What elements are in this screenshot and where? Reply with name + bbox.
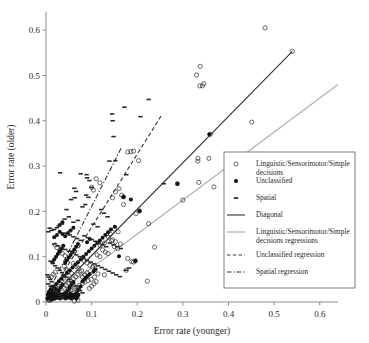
- data-point-filled-circle: [71, 226, 75, 230]
- data-point-open-circle: [263, 26, 267, 30]
- data-point-open-circle: [207, 156, 211, 160]
- data-point-dash: [70, 252, 74, 254]
- data-point-dash: [75, 238, 79, 240]
- data-point-dash: [60, 272, 64, 274]
- data-point-dash: [49, 281, 53, 283]
- data-point-dash: [107, 270, 111, 272]
- data-point-dash: [67, 279, 71, 281]
- data-point-dash: [81, 258, 85, 260]
- data-point-dash: [138, 116, 142, 118]
- data-point-dash: [78, 290, 82, 292]
- data-point-filled-circle: [122, 195, 126, 199]
- data-point-dash: [78, 173, 82, 175]
- data-point-dash: [52, 243, 56, 245]
- legend-marker-dash: [234, 197, 239, 199]
- data-point-dash: [108, 242, 112, 244]
- data-point-dash: [105, 216, 109, 218]
- data-point-filled-circle: [63, 234, 67, 238]
- data-point-dash: [53, 265, 57, 267]
- data-point-dash: [72, 187, 76, 189]
- data-point-dash: [57, 294, 61, 296]
- data-point-dash: [71, 236, 75, 238]
- data-point-dash: [119, 248, 123, 250]
- data-point-dash: [57, 225, 61, 227]
- data-point-dash: [80, 206, 84, 208]
- data-point-dash: [69, 199, 73, 201]
- data-point-dash: [57, 269, 61, 271]
- data-point-dash: [47, 276, 51, 278]
- data-point-dash: [74, 191, 78, 193]
- data-point-dash: [51, 263, 55, 265]
- x-tick-label: 0.4: [223, 309, 235, 319]
- data-point-open-circle: [198, 64, 202, 68]
- data-point-open-circle: [196, 159, 200, 163]
- data-point-dash: [87, 180, 91, 182]
- data-point-filled-circle: [117, 254, 121, 258]
- legend-label: Unclassified: [256, 176, 293, 185]
- data-point-dash: [89, 187, 93, 189]
- y-tick-label: 0.6: [29, 25, 41, 35]
- x-tick-label: 0.5: [269, 309, 281, 319]
- data-point-dash: [103, 269, 107, 271]
- y-tick-label: 0: [36, 297, 41, 307]
- data-point-dash: [107, 160, 111, 162]
- legend-marker-filled-circle: [234, 179, 238, 183]
- data-point-dash: [111, 244, 115, 246]
- data-point-dash: [89, 261, 93, 263]
- data-point-open-circle: [250, 120, 254, 124]
- x-tick-label: 0.2: [132, 309, 143, 319]
- data-point-filled-circle: [85, 240, 89, 244]
- legend-label: Unclassified regression: [256, 250, 325, 259]
- data-point-dash: [110, 120, 114, 122]
- data-point-open-circle: [116, 230, 120, 234]
- data-point-dash: [78, 240, 82, 242]
- data-point-dash: [59, 247, 63, 249]
- data-point-dash: [60, 297, 64, 299]
- data-point-dash: [89, 239, 93, 241]
- data-point-dash: [71, 221, 75, 223]
- data-point-dash: [63, 249, 67, 251]
- legend-label: Spatial: [256, 193, 276, 202]
- legend: Linguistic/Sensorimotor/SimpledecisionsU…: [224, 152, 355, 288]
- data-point-dash: [93, 240, 97, 242]
- data-point-dash: [124, 174, 128, 176]
- data-point-open-circle: [111, 196, 115, 200]
- legend-label: Linguistic/Sensorimotor/Simple: [256, 227, 350, 236]
- data-point-dash: [73, 285, 77, 287]
- data-point-open-circle: [94, 177, 98, 181]
- data-point-open-circle: [132, 149, 136, 153]
- data-point-open-circle: [152, 245, 156, 249]
- data-point-open-circle: [197, 180, 201, 184]
- x-tick-label: 0.1: [86, 309, 97, 319]
- data-point-filled-circle: [175, 182, 179, 186]
- data-point-dash: [78, 256, 82, 258]
- data-point-filled-circle: [138, 209, 142, 213]
- data-point-dash: [86, 197, 90, 199]
- data-point-open-circle: [145, 279, 149, 283]
- data-point-dash: [48, 260, 52, 262]
- data-point-dash: [67, 250, 71, 252]
- data-point-dash: [83, 204, 87, 206]
- x-tick-label: 0.3: [177, 309, 189, 319]
- data-point-filled-circle: [129, 198, 133, 202]
- data-point-dash: [48, 279, 52, 281]
- data-point-dash: [68, 234, 72, 236]
- data-point-open-circle: [96, 272, 100, 276]
- data-point-open-circle: [102, 273, 106, 277]
- data-point-dash: [74, 254, 78, 256]
- data-point-open-circle: [63, 254, 67, 258]
- data-point-open-circle: [121, 202, 125, 206]
- data-point-open-circle: [137, 159, 141, 163]
- data-point-dash: [84, 174, 88, 176]
- data-point-dash: [95, 226, 99, 228]
- data-point-dash: [113, 160, 117, 162]
- data-point-dash: [110, 113, 114, 115]
- x-axis-label: Error rate (younger): [154, 326, 231, 337]
- data-point-dash: [46, 283, 50, 285]
- x-axis-ticks: 00.10.20.30.40.50.6: [44, 302, 326, 319]
- data-point-dash: [69, 281, 73, 283]
- legend-label: Spatial regression: [256, 267, 308, 276]
- data-point-open-circle: [126, 256, 130, 260]
- data-point-filled-circle: [207, 132, 211, 136]
- data-point-dash: [86, 237, 90, 239]
